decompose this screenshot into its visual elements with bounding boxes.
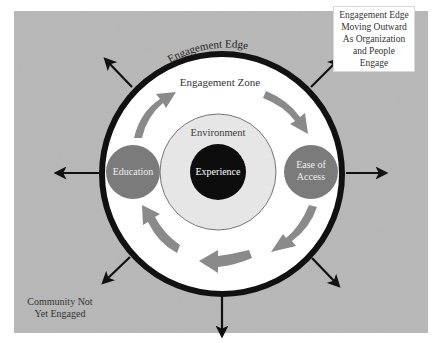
engagement-zone-label: Engagement Zone xyxy=(160,76,280,89)
environment-label: Environment xyxy=(178,127,258,139)
ease-label-line-2: Access xyxy=(283,171,339,183)
ease-label-line-1: Ease of xyxy=(283,159,339,171)
community-line: Yet Engaged xyxy=(18,308,102,320)
callout-line: Engage xyxy=(334,57,414,69)
community-not-engaged-label: Community Not Yet Engaged xyxy=(18,296,102,320)
callout-line: Engagement Edge xyxy=(334,9,414,21)
experience-label: Experience xyxy=(188,166,248,178)
callout-line: and People xyxy=(334,45,414,57)
education-label: Education xyxy=(104,166,162,178)
callout-line: As Organization xyxy=(334,33,414,45)
callout-line: Moving Outward xyxy=(334,21,414,33)
ease-of-access-label: Ease of Access xyxy=(283,159,339,182)
edge-moving-outward-callout: Engagement Edge Moving Outward As Organi… xyxy=(333,6,415,72)
community-line: Community Not xyxy=(18,296,102,308)
